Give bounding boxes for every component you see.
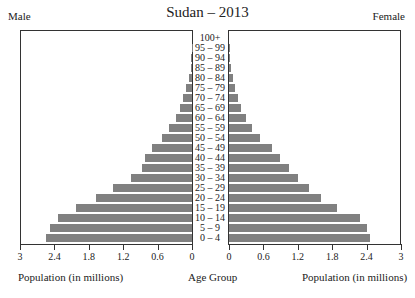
female-bar xyxy=(229,184,309,192)
tick-mark xyxy=(367,244,368,250)
female-bar xyxy=(229,154,280,162)
male-bar xyxy=(142,164,192,172)
female-bar xyxy=(229,124,252,132)
tick-mark xyxy=(298,244,299,250)
tick-label: 1.2 xyxy=(283,251,313,262)
tick-label: 3 xyxy=(386,251,415,262)
tick-mark xyxy=(158,244,159,250)
tick-mark xyxy=(401,244,402,250)
tick-label: 1.2 xyxy=(108,251,138,262)
male-bar xyxy=(145,154,192,162)
x-axis-title-left: Population (in millions) xyxy=(18,271,123,283)
male-bar xyxy=(131,174,192,182)
tick-label: 0 xyxy=(177,251,207,262)
male-bar xyxy=(58,214,192,222)
female-label: Female xyxy=(373,10,405,22)
tick-mark xyxy=(263,244,264,250)
tick-mark xyxy=(332,244,333,250)
male-bar xyxy=(46,234,192,242)
female-bar xyxy=(229,204,337,212)
female-bar xyxy=(229,94,238,102)
female-bar xyxy=(229,134,260,142)
male-bar xyxy=(76,204,192,212)
female-bar xyxy=(229,224,367,232)
male-bar xyxy=(169,124,192,132)
female-bar xyxy=(229,144,272,152)
tick-label: 0.6 xyxy=(143,251,173,262)
x-axis-title-right: Population (in millions) xyxy=(302,271,407,283)
female-bar xyxy=(229,234,370,242)
tick-label: 0 xyxy=(214,251,244,262)
age-group-label: 0 – 4 xyxy=(190,233,230,243)
female-bar xyxy=(229,104,241,112)
tick-label: 1.8 xyxy=(74,251,104,262)
female-bar xyxy=(229,114,246,122)
tick-mark xyxy=(123,244,124,250)
female-bar xyxy=(229,194,321,202)
tick-label: 2.4 xyxy=(39,251,69,262)
tick-label: 3 xyxy=(5,251,35,262)
tick-mark xyxy=(192,244,193,250)
male-bar xyxy=(96,194,192,202)
chart-title: Sudan – 2013 xyxy=(0,4,415,21)
tick-label: 2.4 xyxy=(352,251,382,262)
x-axis-title-center: Age Group xyxy=(188,271,237,283)
tick-label: 0.6 xyxy=(248,251,278,262)
tick-label: 1.8 xyxy=(317,251,347,262)
tick-mark xyxy=(20,244,21,250)
male-bar xyxy=(162,134,192,142)
female-bar xyxy=(229,214,360,222)
male-label: Male xyxy=(8,10,31,22)
male-bar xyxy=(113,184,192,192)
tick-mark xyxy=(229,244,230,250)
male-bar xyxy=(50,224,192,232)
male-bar xyxy=(152,144,192,152)
female-bar xyxy=(229,174,298,182)
female-bar xyxy=(229,164,289,172)
tick-mark xyxy=(54,244,55,250)
tick-mark xyxy=(89,244,90,250)
